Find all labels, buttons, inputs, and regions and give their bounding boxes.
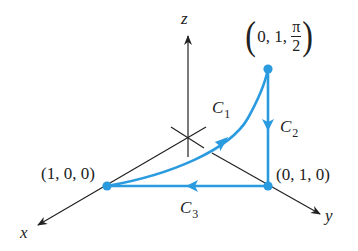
curve-c1-label: C1 xyxy=(212,99,230,116)
curve-c3-label: C3 xyxy=(180,199,198,216)
curve-c1-subscript: 1 xyxy=(224,107,230,121)
y-axis-label: y xyxy=(325,207,333,224)
pi-over-2-fraction: π2 xyxy=(291,19,301,54)
curve-c2-subscript: 2 xyxy=(292,126,298,140)
curve-c2-name: C xyxy=(280,117,291,136)
curve-c3-subscript: 3 xyxy=(192,207,198,221)
curve-c2-label: C2 xyxy=(280,118,298,135)
z-axis-label: z xyxy=(181,10,188,27)
point-1-0-0-label: (1, 0, 0) xyxy=(41,165,95,182)
point-0-1-pi2-label: (0, 1, π2) xyxy=(244,16,315,56)
open-paren: ( xyxy=(245,16,256,56)
point-0-1-pi2-dot xyxy=(263,64,272,73)
fraction-numerator: π xyxy=(291,19,301,37)
fraction-denominator: 2 xyxy=(291,37,301,54)
point-0-1-0-dot xyxy=(263,181,272,190)
x-axis-label: x xyxy=(20,224,28,241)
point-1-0-0-dot xyxy=(102,181,111,190)
curve-c3-name: C xyxy=(180,198,191,217)
close-paren: ) xyxy=(303,16,314,56)
curve-c1-name: C xyxy=(212,98,223,117)
point-0-1-0-label: (0, 1, 0) xyxy=(276,166,330,183)
coords-text: 0, 1, xyxy=(257,27,287,46)
